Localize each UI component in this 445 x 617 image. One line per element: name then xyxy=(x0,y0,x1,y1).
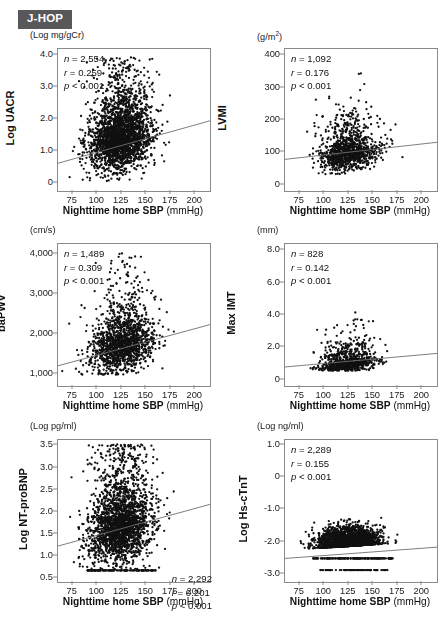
stats-annotation: n = 828r = 0.142p < 0.001 xyxy=(291,247,331,288)
x-tick-label: 75 xyxy=(67,195,77,205)
x-axis-title: Nighttime home SBP (mmHg) xyxy=(284,205,436,216)
y-tick-label: 100 xyxy=(264,146,280,156)
x-tick-mark xyxy=(347,385,348,389)
x-tick-label: 75 xyxy=(294,195,304,205)
x-tick-label: 175 xyxy=(389,390,405,400)
y-axis-ticks: 1.00-1.0-2.0-3.0 xyxy=(227,439,284,581)
x-tick-label: 200 xyxy=(414,195,430,205)
x-tick-mark xyxy=(96,190,97,194)
x-tick-mark xyxy=(298,190,299,194)
stat-n-count: n = 2,289 xyxy=(291,443,331,457)
y-tick-label: 300 xyxy=(264,82,280,92)
x-tick-label: 75 xyxy=(294,390,304,400)
stat-p-value: p < 0.001 xyxy=(291,470,331,484)
y-tick-label: 400 xyxy=(264,49,280,59)
x-tick-mark xyxy=(96,385,97,389)
panel-nt-probnp: (Log pg/ml) Log NT-proBNP 3.53.02.52.01.… xyxy=(0,421,218,617)
x-tick-label: 200 xyxy=(187,390,203,400)
y-tick-label: 3,000 xyxy=(30,288,53,298)
y-tick-label: 1.5 xyxy=(40,528,53,538)
x-tick-label: 125 xyxy=(113,195,129,205)
panel-lvmi: (g/m2) LVMI 4003002001000 75100125150175… xyxy=(227,30,445,225)
x-tick-label: 125 xyxy=(340,195,356,205)
y-tick-label: 2.0 xyxy=(267,341,280,351)
x-tick-mark xyxy=(169,385,170,389)
x-tick-mark xyxy=(396,190,397,194)
y-tick-label: 3.0 xyxy=(40,462,53,472)
stat-r-value: r = 0.309 xyxy=(64,261,104,275)
x-tick-mark xyxy=(421,385,422,389)
x-tick-label: 150 xyxy=(364,586,380,596)
y-tick-label: -2.0 xyxy=(264,536,280,546)
figure-root: J-HOP (Log mg/gCr) Log UACR 4.03.02.01.0… xyxy=(0,0,445,617)
stat-p-value: p < 0.001 xyxy=(291,79,331,93)
y-axis-ticks: 4,0003,0002,0001,000 xyxy=(0,243,57,385)
x-tick-mark xyxy=(323,190,324,194)
stat-r-value: r = 0.201 xyxy=(172,586,212,600)
stat-n-count: n = 1,489 xyxy=(64,247,104,261)
y-tick-label: 2.0 xyxy=(40,506,53,516)
x-tick-label: 75 xyxy=(67,390,77,400)
stat-p-value: p < 0.001 xyxy=(64,274,104,288)
x-tick-label: 125 xyxy=(113,390,129,400)
study-badge: J-HOP xyxy=(18,10,72,29)
x-axis-title: Nighttime home SBP (mmHg) xyxy=(57,400,209,411)
stats-annotation: n = 1,092r = 0.176p < 0.001 xyxy=(291,52,331,93)
plot-area xyxy=(57,439,211,583)
x-tick-label: 75 xyxy=(67,586,77,596)
x-tick-mark xyxy=(298,581,299,585)
x-tick-label: 125 xyxy=(113,586,129,596)
x-tick-label: 150 xyxy=(137,195,153,205)
scatter-canvas xyxy=(58,440,210,582)
stat-r-value: r = 0.176 xyxy=(291,66,331,80)
y-tick-label: 2.5 xyxy=(40,484,53,494)
x-tick-label: 150 xyxy=(364,195,380,205)
x-axis-ticks: 75100125150175200 xyxy=(284,581,436,597)
x-tick-mark xyxy=(120,581,121,585)
y-tick-label: 200 xyxy=(264,114,280,124)
x-tick-label: 125 xyxy=(340,586,356,596)
x-tick-mark xyxy=(96,581,97,585)
y-tick-label: 4,000 xyxy=(30,248,53,258)
x-tick-label: 100 xyxy=(315,586,331,596)
x-tick-mark xyxy=(421,581,422,585)
x-tick-mark xyxy=(194,385,195,389)
x-tick-label: 200 xyxy=(414,390,430,400)
x-tick-mark xyxy=(145,385,146,389)
x-axis-title: Nighttime home SBP (mmHg) xyxy=(284,400,436,411)
x-tick-mark xyxy=(120,385,121,389)
x-tick-mark xyxy=(169,190,170,194)
y-tick-label: 1,000 xyxy=(30,368,53,378)
stat-p-value: p < 0.001 xyxy=(291,274,331,288)
x-tick-mark xyxy=(372,190,373,194)
stat-p-value: p < 0.001 xyxy=(172,599,212,613)
x-axis-ticks: 75100125150175200 xyxy=(57,385,209,401)
stats-annotation: n = 2,554r = 0.259p < 0.001 xyxy=(64,52,104,93)
unit-label: (cm/s) xyxy=(30,225,56,235)
y-tick-label: -3.0 xyxy=(264,568,280,578)
panel-uacr: (Log mg/gCr) Log UACR 4.03.02.01.00 7510… xyxy=(0,30,218,225)
x-tick-mark xyxy=(323,385,324,389)
x-axis-ticks: 75100125150175200 xyxy=(57,190,209,206)
y-tick-label: 1.0 xyxy=(40,550,53,560)
x-tick-label: 175 xyxy=(389,586,405,596)
stats-annotation: n = 1,489r = 0.309p < 0.001 xyxy=(64,247,104,288)
y-axis-ticks: 4003002001000 xyxy=(227,48,284,190)
x-tick-label: 100 xyxy=(88,195,104,205)
unit-label: (Log pg/ml) xyxy=(30,421,76,431)
x-tick-mark xyxy=(396,581,397,585)
y-tick-label: 2,000 xyxy=(30,328,53,338)
x-tick-mark xyxy=(194,190,195,194)
y-axis-ticks: 8.06.04.02.00 xyxy=(227,243,284,385)
stat-r-value: r = 0.259 xyxy=(64,66,104,80)
stat-p-value: p < 0.001 xyxy=(64,79,104,93)
x-tick-mark xyxy=(71,385,72,389)
stat-r-value: r = 0.155 xyxy=(291,457,331,471)
y-tick-label: 8.0 xyxy=(267,244,280,254)
y-tick-label: 4.0 xyxy=(40,49,53,59)
x-tick-label: 175 xyxy=(162,390,178,400)
x-tick-mark xyxy=(145,581,146,585)
x-tick-mark xyxy=(372,385,373,389)
stat-n-count: n = 2,292 xyxy=(172,572,212,586)
x-tick-mark xyxy=(347,190,348,194)
